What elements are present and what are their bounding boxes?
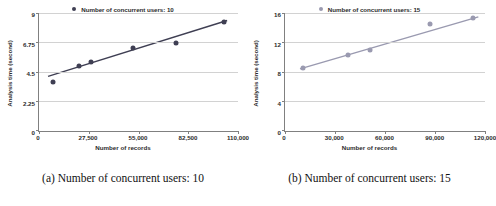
y-axis-tick-mark — [36, 42, 39, 43]
x-tick-label: 90,000 — [425, 134, 444, 141]
trendline-b — [285, 14, 485, 131]
gridline — [39, 13, 238, 14]
x-tick-label: 82,500 — [179, 134, 198, 141]
x-axis-ticks-a: 027,50055,00082,500110,000 — [38, 134, 238, 144]
gridline — [39, 42, 238, 43]
trendline-a — [39, 14, 238, 131]
y-axis-ticks-a: 02.254.56.759 — [13, 14, 37, 132]
data-point — [131, 46, 136, 51]
data-point — [471, 16, 476, 21]
caption-b: (b) Number of concurrent users: 15 — [246, 172, 493, 184]
data-point — [51, 80, 56, 85]
y-tick-label: 6.75 — [23, 40, 35, 47]
plot-frame-b — [284, 14, 485, 132]
plot-frame-a — [38, 14, 238, 132]
gridline — [39, 72, 238, 73]
plot-area-a: Analysis time (second) 02.254.56.759 027… — [0, 14, 246, 148]
y-tick-label: 4 — [278, 99, 281, 106]
y-axis-tick-mark — [282, 72, 285, 73]
y-axis-tick-mark — [282, 42, 285, 43]
y-tick-label: 4.5 — [26, 70, 35, 77]
legend-marker-icon-a — [72, 7, 76, 11]
x-tick-label: 60,000 — [375, 134, 394, 141]
y-tick-label: 9 — [32, 11, 35, 18]
x-tick-label: 120,000 — [474, 134, 496, 141]
data-point — [346, 52, 351, 57]
gridline — [285, 101, 485, 102]
gridline — [39, 101, 238, 102]
data-point — [301, 66, 306, 71]
y-tick-label: 16 — [274, 11, 281, 18]
data-point — [76, 64, 81, 69]
data-point — [428, 22, 433, 27]
x-axis-ticks-b: 030,00060,00090,000120,000 — [284, 134, 485, 144]
y-tick-label: 12 — [274, 40, 281, 47]
y-axis-tick-mark — [36, 101, 39, 102]
x-tick-label: 27,500 — [79, 134, 98, 141]
x-tick-label: 0 — [282, 134, 285, 141]
x-axis-title-b: Number of records — [246, 144, 493, 151]
y-axis-tick-mark — [282, 101, 285, 102]
gridline — [285, 42, 485, 43]
x-tick-label: 30,000 — [325, 134, 344, 141]
y-axis-tick-mark — [36, 72, 39, 73]
x-tick-label: 0 — [36, 134, 39, 141]
chart-panel-b: Number of concurrent users: 15 Analysis … — [246, 0, 493, 206]
gridline — [285, 72, 485, 73]
caption-a: (a) Number of concurrent users: 10 — [0, 172, 246, 184]
x-axis-title-a: Number of records — [0, 144, 246, 151]
y-tick-label: 8 — [278, 70, 281, 77]
gridline — [285, 13, 485, 14]
legend-marker-icon-b — [319, 7, 323, 11]
y-axis-tick-mark — [282, 13, 285, 14]
legend-label-b: Number of concurrent users: 15 — [328, 6, 420, 13]
y-tick-label: 0 — [32, 129, 35, 136]
chart-panel-a: Number of concurrent users: 10 Analysis … — [0, 0, 246, 206]
data-point — [221, 19, 226, 24]
x-tick-label: 55,000 — [129, 134, 148, 141]
data-point — [174, 40, 179, 45]
data-point — [368, 47, 373, 52]
y-tick-label: 2.25 — [23, 99, 35, 106]
y-axis-tick-mark — [36, 13, 39, 14]
legend-label-a: Number of concurrent users: 10 — [81, 6, 173, 13]
plot-area-b: Analysis time (second) 0481216 030,00060… — [246, 14, 493, 148]
data-point — [89, 60, 94, 65]
y-tick-label: 0 — [278, 129, 281, 136]
y-axis-ticks-b: 0481216 — [259, 14, 283, 132]
